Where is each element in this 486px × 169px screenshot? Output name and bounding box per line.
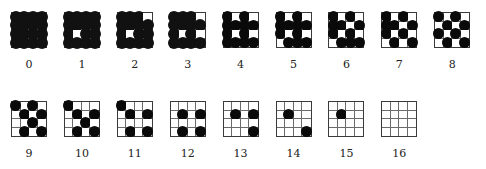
grid-cell [224,128,233,137]
grid-cell [391,39,400,48]
grid-cell [461,39,470,48]
grid-cell [90,128,99,137]
pattern-2: 2 [117,12,153,48]
grid-cell [118,102,127,111]
grid-cell [408,128,417,137]
grid-cell [382,102,391,111]
grid-cell [399,102,408,111]
dot-icon [142,37,154,49]
grid-cell [408,119,417,128]
pattern-grid [11,12,47,48]
grid-cell [302,39,311,48]
grid-cell [382,111,391,120]
grid-cell [188,102,197,111]
grid-cell [126,111,135,120]
dot-icon [194,37,206,49]
pattern-grid [328,12,364,48]
pattern-label: 9 [11,147,47,160]
pattern-3: 3 [170,12,206,48]
grid-cell [65,119,74,128]
grid-cell [188,119,197,128]
grid-cell [355,111,364,120]
pattern-grid [170,101,206,137]
pattern-label: 11 [117,147,153,160]
dot-icon [459,37,470,48]
grid-cell [399,119,408,128]
pattern-label: 6 [328,58,364,71]
grid-cell [73,128,82,137]
pattern-label: 16 [381,147,417,160]
grid-cell [391,128,400,137]
grid-cell [355,39,364,48]
pattern-grid [328,101,364,137]
pattern-grid [276,101,312,137]
pattern-grid [276,12,312,48]
grid-cell [294,102,303,111]
grid-cell [338,111,347,120]
dot-icon [248,37,259,48]
grid-cell [408,22,417,31]
pattern-13: 13 [223,101,259,137]
pattern-label: 7 [381,58,417,71]
grid-cell [346,119,355,128]
grid-cell [346,111,355,120]
grid-cell [346,13,355,22]
grid-cell [452,13,461,22]
grid-cell [232,119,241,128]
dot-icon [301,37,312,48]
grid-cell [399,30,408,39]
grid-cell [241,119,250,128]
grid-cell [241,102,250,111]
grid-cell [135,102,144,111]
grid-cell [382,119,391,128]
grid-cell [338,22,347,31]
grid-cell [196,128,205,137]
pattern-4: 4 [223,12,259,48]
pattern-label: 2 [117,58,153,71]
grid-cell [329,102,338,111]
grid-cell [435,13,444,22]
grid-cell [285,128,294,137]
grid-cell [224,119,233,128]
pattern-grid [117,12,153,48]
grid-cell [179,111,188,120]
pattern-label: 13 [223,147,259,160]
grid-cell [143,39,152,48]
grid-cell [355,22,364,31]
grid-cell [126,128,135,137]
dot-icon [195,126,206,137]
grid-cell [196,111,205,120]
pattern-7: 7 [381,12,417,48]
grid-cell [143,128,152,137]
dot-icon [248,126,259,137]
grid-cell [277,119,286,128]
pattern-12: 12 [170,101,206,137]
grid-cell [135,119,144,128]
grid-cell [355,119,364,128]
grid-cell [171,119,180,128]
grid-cell [391,111,400,120]
grid-cell [408,39,417,48]
grid-cell [65,102,74,111]
grid-cell [338,128,347,137]
grid-cell [29,102,38,111]
pattern-grid [381,101,417,137]
grid-cell [399,111,408,120]
pattern-6: 6 [328,12,364,48]
grid-cell [232,128,241,137]
grid-cell [302,102,311,111]
pattern-label: 15 [328,147,364,160]
pattern-16: 16 [381,101,417,137]
pattern-1: 1 [64,12,100,48]
grid-cell [391,119,400,128]
dot-icon [301,126,312,137]
grid-cell [249,128,258,137]
pattern-label: 0 [11,58,47,71]
grid-cell [196,39,205,48]
grid-cell [302,22,311,31]
pattern-11: 11 [117,101,153,137]
grid-cell [408,102,417,111]
grid-cell [408,111,417,120]
dot-icon [407,37,418,48]
pattern-label: 12 [170,147,206,160]
